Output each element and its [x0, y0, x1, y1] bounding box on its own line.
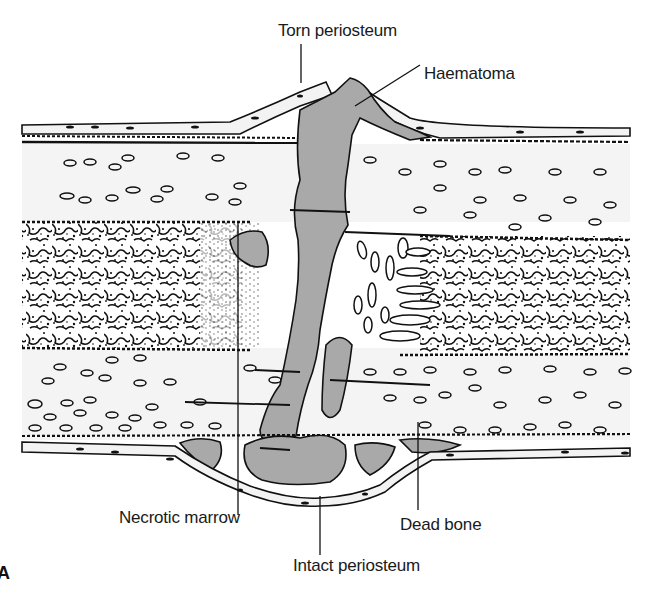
- label-necrotic-marrow: Necrotic marrow: [119, 508, 240, 528]
- label-torn-periosteum: Torn periosteum: [278, 21, 397, 41]
- panel-letter: A: [0, 563, 10, 584]
- bone-fracture-diagram: [0, 0, 648, 591]
- label-intact-periosteum: Intact periosteum: [293, 556, 420, 576]
- label-dead-bone: Dead bone: [400, 515, 481, 535]
- label-haematoma: Haematoma: [424, 64, 515, 84]
